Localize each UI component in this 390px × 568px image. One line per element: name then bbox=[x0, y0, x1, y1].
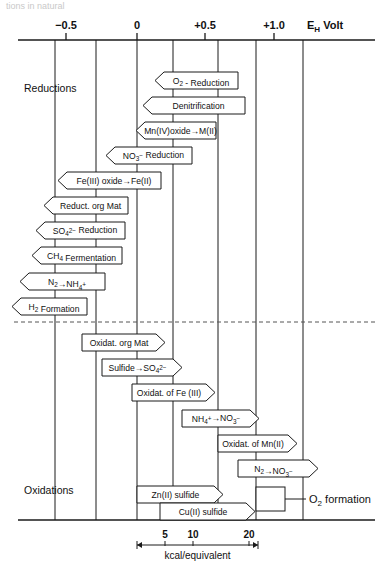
oxidat-of-fe: Oxidat. of Fe (III) bbox=[132, 384, 215, 401]
cropped-caption-fragment: tions in natural bbox=[6, 1, 65, 11]
fe-oxide-reduction-label: Fe(III) oxide→Fe(II) bbox=[77, 176, 152, 186]
scale-tick-label-2: 20 bbox=[243, 529, 255, 540]
scale-bar-arrow-0 bbox=[137, 542, 142, 548]
reductions-section-label: Reductions bbox=[24, 82, 77, 94]
so4-reduction: SO42− Reduction bbox=[36, 222, 125, 239]
axis-tick-label-2: +0.5 bbox=[194, 19, 216, 31]
no3-reduction: NO3− Reduction bbox=[106, 147, 192, 164]
axis-tick-label-1: 0 bbox=[134, 19, 140, 31]
n2-to-nh4: N2→NH4+ bbox=[20, 273, 105, 291]
fe-oxide-reduction: Fe(III) oxide→Fe(II) bbox=[58, 172, 161, 189]
scale-caption: kcal/equivalent bbox=[164, 550, 230, 561]
mn-oxide-reduction: Mn(IV)oxide→M(II) bbox=[136, 122, 217, 139]
zn-sulfide-label: Zn(II) sulfide bbox=[152, 490, 200, 500]
oxidat-org-mat: Oxidat. org Mat bbox=[82, 334, 165, 351]
sulfide-to-so4: Sulfide→SO42− bbox=[102, 359, 182, 376]
axis-tick-label-3: +1.0 bbox=[263, 19, 285, 31]
mn-oxide-reduction-label: Mn(IV)oxide→M(II) bbox=[144, 126, 217, 136]
scale-tick-label-1: 10 bbox=[187, 529, 199, 540]
oxidat-of-fe-label: Oxidat. of Fe (III) bbox=[137, 388, 202, 398]
cu-sulfide: Cu(II) sulfide bbox=[160, 503, 255, 520]
oxidat-of-mn-label: Oxidat. of Mn(II) bbox=[222, 439, 284, 449]
cu-sulfide-label: Cu(II) sulfide bbox=[179, 507, 228, 517]
denitrification: Denitrification bbox=[143, 97, 245, 114]
reduct-org-mat: Reduct. org Mat bbox=[44, 197, 128, 214]
redox-sequence-figure: tions in natural−0.50+0.5+1.0EH VoltO2 -… bbox=[0, 0, 390, 568]
o2-reduction: O2 - Reduction bbox=[155, 72, 238, 89]
axis-tick-label-0: −0.5 bbox=[55, 19, 77, 31]
scale-tick-label-0: 5 bbox=[162, 529, 168, 540]
o2-formation-label: O2 formation bbox=[309, 493, 371, 508]
o2-formation-box bbox=[256, 487, 285, 511]
scale-bar-arrow-1 bbox=[253, 542, 258, 548]
oxidat-of-mn: Oxidat. of Mn(II) bbox=[218, 435, 297, 452]
nh4-to-no3: NH4+→NO3− bbox=[182, 410, 259, 427]
oxidat-org-mat-label: Oxidat. org Mat bbox=[90, 338, 149, 348]
reduct-org-mat-label: Reduct. org Mat bbox=[60, 201, 122, 211]
figure-canvas: tions in natural−0.50+0.5+1.0EH VoltO2 -… bbox=[0, 0, 390, 568]
axis-unit-label: EH Volt bbox=[307, 19, 343, 34]
zn-sulfide: Zn(II) sulfide bbox=[137, 486, 223, 503]
ch4-fermentation: CH4 Fermentation bbox=[32, 247, 122, 264]
denitrification-label: Denitrification bbox=[172, 101, 224, 111]
n2-to-no3: N2→NO3− bbox=[238, 460, 318, 478]
oxidations-section-label: Oxidations bbox=[24, 484, 74, 496]
h2-formation: H2 Formation bbox=[12, 298, 87, 315]
